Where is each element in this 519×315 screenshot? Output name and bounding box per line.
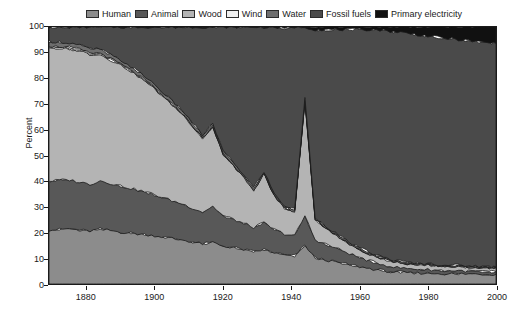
legend-label: Animal (151, 10, 179, 19)
x-tick-1960: 1960 (350, 292, 370, 302)
x-tick-1880: 1880 (76, 292, 96, 302)
legend-label: Wind (242, 10, 263, 19)
x-tick-2000: 2000 (487, 292, 507, 302)
x-tick-mark (154, 286, 155, 290)
legend-label: Wood (198, 10, 221, 19)
legend-swatch-icon (86, 10, 99, 18)
legend-item-primary-electricity[interactable]: Primary electricity (375, 10, 462, 19)
legend-swatch-icon (135, 10, 148, 18)
x-axis-tick-labels: 1880190019201940196019802000 (48, 286, 497, 310)
stacked-area-svg (49, 27, 496, 284)
legend-label: Primary electricity (391, 10, 462, 19)
legend-swatch-icon (182, 10, 195, 18)
x-tick-mark (428, 286, 429, 290)
x-tick-mark (223, 286, 224, 290)
x-tick-mark (360, 286, 361, 290)
x-tick-1900: 1900 (144, 292, 164, 302)
x-tick-mark (86, 286, 87, 290)
legend-item-water[interactable]: Water (266, 10, 306, 19)
legend-item-animal[interactable]: Animal (135, 10, 179, 19)
x-tick-1940: 1940 (281, 292, 301, 302)
y-axis-tick-marks (0, 26, 48, 285)
legend-label: Fossil fuels (326, 10, 371, 19)
legend-item-fossil-fuels[interactable]: Fossil fuels (310, 10, 371, 19)
legend-swatch-icon (310, 10, 323, 18)
legend-item-wood[interactable]: Wood (182, 10, 221, 19)
legend-label: Human (102, 10, 131, 19)
x-tick-mark (497, 286, 498, 290)
legend-item-human[interactable]: Human (86, 10, 131, 19)
chart-root: HumanAnimalWoodWindWaterFossil fuelsPrim… (0, 0, 519, 315)
legend-swatch-icon (375, 10, 388, 18)
legend-swatch-icon (226, 10, 239, 18)
plot-area (48, 26, 497, 285)
x-tick-1980: 1980 (418, 292, 438, 302)
x-tick-1920: 1920 (213, 292, 233, 302)
legend-item-wind[interactable]: Wind (226, 10, 263, 19)
x-tick-mark (291, 286, 292, 290)
legend-label: Water (282, 10, 306, 19)
legend-swatch-icon (266, 10, 279, 18)
chart-legend: HumanAnimalWoodWindWaterFossil fuelsPrim… (48, 7, 500, 21)
